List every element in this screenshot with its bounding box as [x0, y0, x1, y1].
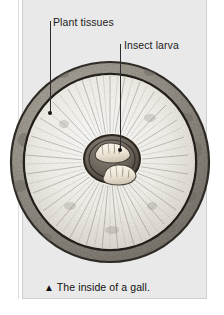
- figure-root: Plant tissues Insect larva ▲ The inside …: [0, 0, 224, 315]
- insect-larva-leader-line: [120, 44, 121, 150]
- caption-text: The inside of a gall.: [57, 281, 150, 293]
- figure-caption: ▲ The inside of a gall.: [44, 281, 150, 293]
- label-plant-tissues: Plant tissues: [53, 16, 114, 28]
- plant-tissues-leader-dot: [48, 111, 52, 115]
- label-insect-larva: Insect larva: [124, 39, 179, 51]
- insect-larva-leader-dot: [118, 148, 122, 152]
- plant-tissues-leader-line: [50, 21, 51, 113]
- caption-triangle-icon: ▲: [44, 282, 54, 293]
- labels-layer: Plant tissues Insect larva: [0, 0, 224, 315]
